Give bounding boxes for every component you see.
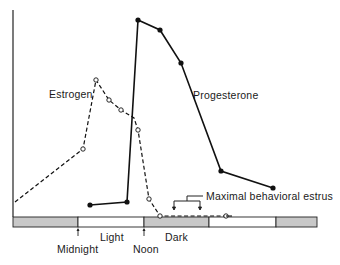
light-label: Light — [100, 232, 124, 243]
estrogen-label: Estrogen — [49, 89, 93, 100]
estrus-label: Maximal behavioral estrus — [206, 191, 333, 202]
data-point — [119, 108, 123, 112]
midnight-arrow-icon — [77, 228, 80, 236]
bar-segment-light — [78, 217, 144, 227]
data-point — [135, 17, 140, 22]
data-point — [157, 27, 162, 32]
bar-segment-dark — [13, 217, 78, 227]
data-point — [136, 128, 140, 132]
data-point — [87, 202, 92, 207]
bar-segment-dark — [276, 217, 317, 227]
bar-segment-light — [209, 217, 276, 227]
progesterone-label: Progesterone — [193, 90, 258, 101]
data-point — [81, 147, 85, 151]
noon-label: Noon — [133, 244, 159, 255]
light-dark-bar — [13, 217, 317, 227]
data-point — [147, 197, 151, 201]
data-point — [107, 98, 111, 102]
data-point — [218, 168, 223, 173]
hormone-chart — [0, 0, 340, 265]
midnight-label: Midnight — [57, 244, 98, 255]
progesterone-series — [87, 17, 275, 207]
estrus-bracket-icon — [173, 196, 204, 210]
data-point — [94, 78, 98, 82]
data-point — [124, 199, 129, 204]
bar-segment-dark — [144, 217, 209, 227]
noon-arrow-icon — [143, 228, 146, 236]
dark-label: Dark — [165, 232, 188, 243]
data-point — [158, 214, 162, 218]
data-point — [178, 60, 183, 65]
